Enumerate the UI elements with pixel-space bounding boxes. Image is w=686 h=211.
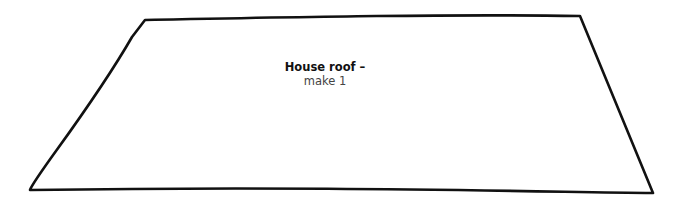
piece-title: House roof – (250, 60, 400, 74)
piece-instruction: make 1 (250, 74, 400, 88)
piece-label: House roof – make 1 (250, 60, 400, 88)
roof-trapezoid-outline (0, 0, 686, 211)
